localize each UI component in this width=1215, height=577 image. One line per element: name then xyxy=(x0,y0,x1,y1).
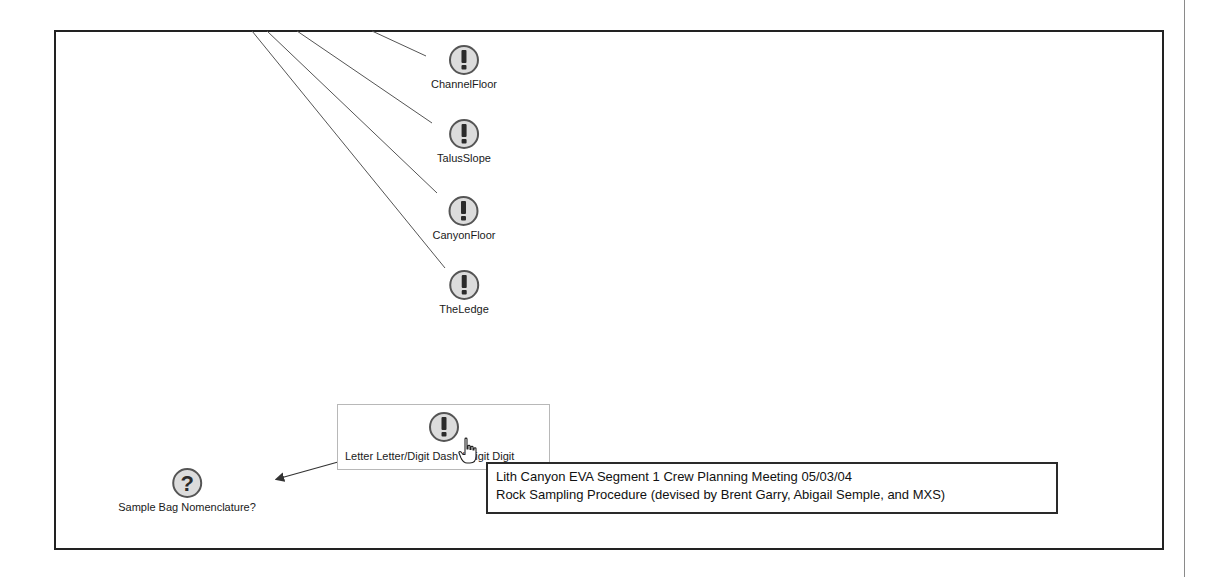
selected-node-label: Letter Letter/Digit Dash / Digit Digit xyxy=(345,450,514,462)
hand-cursor-icon xyxy=(458,437,478,465)
node-tooltip: Lith Canyon EVA Segment 1 Crew Planning … xyxy=(486,462,1058,514)
exclamation-icon xyxy=(448,269,480,301)
node-label: TalusSlope xyxy=(437,152,491,164)
page-edge-rule xyxy=(1184,0,1185,577)
exclamation-icon xyxy=(448,195,480,227)
exclamation-icon xyxy=(448,118,480,150)
node-sample-bag-nomenclature[interactable]: ? Sample Bag Nomenclature? xyxy=(118,467,256,513)
node-the-ledge[interactable]: TheLedge xyxy=(439,269,489,315)
svg-text:?: ? xyxy=(180,471,193,496)
node-talus-slope[interactable]: TalusSlope xyxy=(437,118,491,164)
question-icon: ? xyxy=(171,467,203,499)
selected-node[interactable]: Letter Letter/Digit Dash / Digit Digit xyxy=(337,404,550,470)
node-canyon-floor[interactable]: CanyonFloor xyxy=(433,195,496,241)
node-label: TheLedge xyxy=(439,303,489,315)
node-channel-floor[interactable]: ChannelFloor xyxy=(431,44,497,90)
node-label: CanyonFloor xyxy=(433,229,496,241)
tooltip-line-1: Lith Canyon EVA Segment 1 Crew Planning … xyxy=(496,468,1048,486)
exclamation-icon xyxy=(448,44,480,76)
node-label: ChannelFloor xyxy=(431,78,497,90)
tooltip-line-2: Rock Sampling Procedure (devised by Bren… xyxy=(496,486,1048,504)
node-label: Sample Bag Nomenclature? xyxy=(118,501,256,513)
exclamation-icon xyxy=(428,411,460,443)
